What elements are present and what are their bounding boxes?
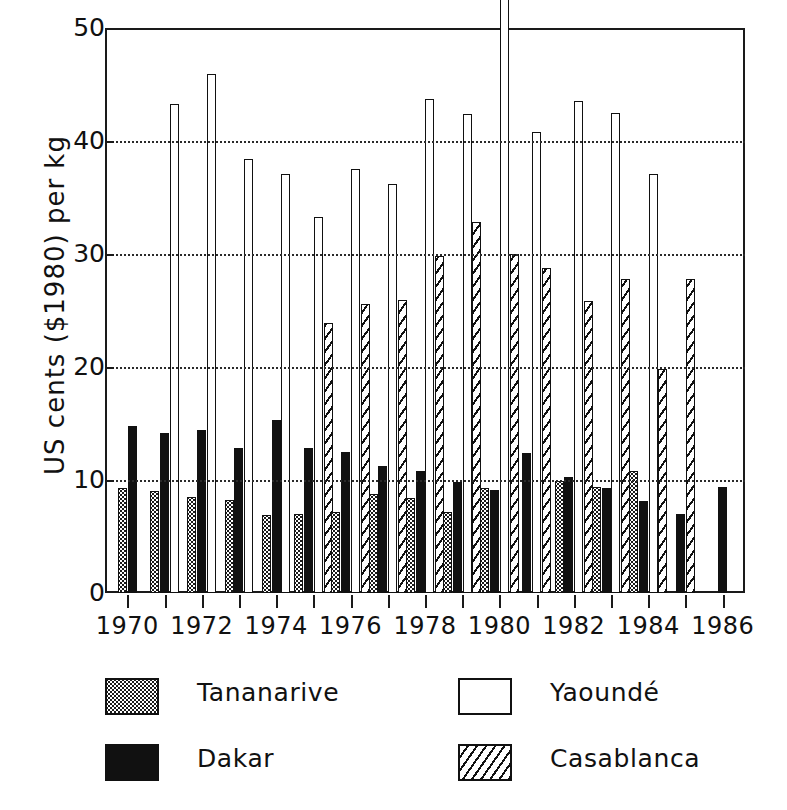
y-tick-label-30: 30 (45, 241, 105, 266)
x-tick-label-1972: 1972 (162, 612, 242, 640)
bar-tananarive-1979 (443, 512, 452, 593)
y-tick-mark-30 (105, 254, 114, 256)
bar-dakar-1977 (378, 466, 387, 593)
bar-tananarive-1970 (118, 488, 127, 593)
bar-tananarive-1983 (592, 487, 601, 593)
bar-dakar-1971 (160, 433, 169, 593)
x-tick-label-1982: 1982 (534, 612, 614, 640)
bar-casablanca-1980 (510, 254, 519, 593)
bar-tananarive-1978 (406, 498, 415, 593)
bar-dakar-1986 (718, 487, 727, 593)
bar-yaounde-1980 (500, 0, 509, 593)
y-tick-mark-20 (105, 367, 114, 369)
y-tick-label-10: 10 (45, 467, 105, 492)
bar-tananarive-1976 (331, 512, 340, 593)
black-swatch-icon (105, 744, 159, 781)
bar-tananarive-1975 (294, 514, 303, 593)
x-tick-mark-1981 (537, 595, 539, 608)
bar-dakar-1972 (197, 430, 206, 593)
bar-dakar-1983 (602, 488, 611, 593)
bar-tananarive-1977 (369, 494, 378, 593)
bar-dakar-1981 (522, 453, 531, 593)
x-tick-mark-1979 (462, 595, 464, 608)
x-tick-label-1984: 1984 (608, 612, 688, 640)
bar-dakar-1974 (272, 420, 281, 593)
bar-tananarive-1980 (480, 488, 489, 593)
y-tick-label-50: 50 (45, 15, 105, 40)
x-tick-mark-1984 (648, 595, 650, 608)
y-tick-mark-40 (105, 141, 114, 143)
bar-dakar-1984 (639, 501, 648, 593)
bar-dakar-1976 (341, 452, 350, 593)
bar-yaounde-1976 (351, 169, 360, 593)
bars-layer (105, 28, 745, 593)
x-tick-label-1974: 1974 (236, 612, 316, 640)
x-tick-mark-1985 (685, 595, 687, 608)
hatched-swatch-icon (458, 744, 512, 781)
bar-dakar-1975 (304, 448, 313, 593)
x-tick-mark-1970 (127, 595, 129, 608)
x-tick-label-1986: 1986 (683, 612, 763, 640)
bar-dakar-1980 (490, 490, 499, 593)
bar-chart-figure: US cents ($1980) per kg 01020304050 1970… (0, 0, 787, 810)
bar-yaounde-1975 (314, 217, 323, 593)
x-tick-label-1976: 1976 (311, 612, 391, 640)
plot-area (105, 28, 745, 593)
bar-dakar-1985 (676, 514, 685, 593)
x-tick-mark-1971 (165, 595, 167, 608)
x-tick-mark-1980 (499, 595, 501, 608)
x-tick-mark-1973 (239, 595, 241, 608)
bar-tananarive-1972 (187, 497, 196, 593)
bar-yaounde-1972 (207, 74, 216, 593)
bar-casablanca-1981 (542, 268, 551, 593)
x-tick-mark-1974 (276, 595, 278, 608)
bar-tananarive-1984 (629, 471, 638, 593)
x-tick-label-1970: 1970 (87, 612, 167, 640)
y-tick-label-0: 0 (45, 580, 105, 605)
x-tick-mark-1978 (425, 595, 427, 608)
chart-legend: Tananarive Dakar Yaoundé Casablanca (0, 660, 787, 810)
bar-tananarive-1971 (150, 491, 159, 593)
x-tick-mark-1982 (574, 595, 576, 608)
bar-tananarive-1974 (262, 515, 271, 593)
legend-label-casablanca: Casablanca (550, 744, 700, 773)
bar-yaounde-1982 (574, 101, 583, 593)
bar-yaounde-1974 (281, 174, 290, 593)
x-tick-mark-1986 (723, 595, 725, 608)
bar-dakar-1982 (564, 477, 573, 593)
y-tick-label-20: 20 (45, 354, 105, 379)
bar-yaounde-1984 (649, 174, 658, 593)
x-tick-mark-1983 (611, 595, 613, 608)
bar-yaounde-1981 (532, 132, 541, 593)
bar-yaounde-1973 (244, 159, 253, 593)
x-tick-label-1978: 1978 (385, 612, 465, 640)
x-tick-mark-1976 (351, 595, 353, 608)
bar-yaounde-1979 (463, 114, 472, 593)
bar-yaounde-1971 (170, 104, 179, 593)
bar-dakar-1973 (234, 448, 243, 593)
bar-dakar-1970 (128, 426, 137, 593)
bar-yaounde-1977 (388, 184, 397, 593)
bar-tananarive-1982 (555, 481, 564, 593)
bar-tananarive-1973 (225, 500, 234, 593)
bar-dakar-1979 (453, 482, 462, 593)
x-tick-mark-1977 (388, 595, 390, 608)
open-swatch-icon (458, 678, 512, 715)
x-tick-mark-1975 (313, 595, 315, 608)
y-tick-mark-10 (105, 480, 114, 482)
y-tick-label-40: 40 (45, 128, 105, 153)
legend-label-yaounde: Yaoundé (550, 678, 660, 707)
dotted-swatch-icon (105, 678, 159, 715)
legend-label-tananarive: Tananarive (197, 678, 339, 707)
bar-dakar-1978 (416, 471, 425, 593)
x-tick-mark-1972 (202, 595, 204, 608)
x-tick-label-1980: 1980 (459, 612, 539, 640)
bar-casablanca-1985 (686, 279, 695, 593)
legend-label-dakar: Dakar (197, 744, 274, 773)
bar-yaounde-1983 (611, 113, 620, 593)
bar-yaounde-1978 (425, 99, 434, 593)
bar-casablanca-1984 (658, 369, 667, 593)
